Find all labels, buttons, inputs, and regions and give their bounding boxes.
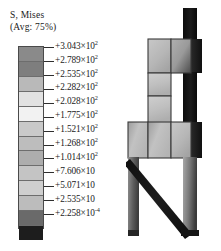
legend-swatch bbox=[19, 150, 43, 165]
legend-swatch bbox=[19, 195, 43, 210]
panel-upper-left bbox=[148, 39, 171, 73]
legend-swatch bbox=[19, 165, 43, 180]
legend-swatch bbox=[19, 180, 43, 195]
left-base-plate bbox=[128, 230, 139, 236]
panel-mid-upper bbox=[148, 73, 171, 96]
legend-label: +3.043×102 bbox=[55, 41, 98, 51]
legend-tick bbox=[44, 158, 54, 159]
legend-label: +2.789×102 bbox=[55, 55, 98, 65]
legend-swatch bbox=[19, 210, 43, 225]
legend-subtitle: (Avg: 75%) bbox=[10, 22, 56, 32]
legend-tick bbox=[44, 61, 54, 62]
legend-tick bbox=[44, 89, 54, 90]
legend-tick bbox=[44, 117, 54, 118]
legend-label: +1.521×102 bbox=[55, 124, 98, 134]
legend-swatch bbox=[19, 136, 43, 151]
legend-swatch bbox=[19, 121, 43, 136]
legend-label: +5.071×10 bbox=[55, 180, 95, 190]
legend-tick bbox=[44, 200, 54, 201]
legend-label: +1.268×102 bbox=[55, 138, 98, 148]
right-base-plate bbox=[181, 230, 199, 236]
legend-swatch bbox=[19, 91, 43, 106]
beam-cell-3 bbox=[171, 122, 191, 158]
legend-label: +1.014×102 bbox=[55, 152, 98, 162]
stress-contour-model bbox=[126, 0, 221, 251]
panel-mid-lower bbox=[148, 96, 171, 123]
legend-tick bbox=[44, 186, 54, 187]
legend-swatch bbox=[19, 106, 43, 121]
stress-legend: S, Mises (Avg: 75%) +3.043×102+2.789×102… bbox=[0, 0, 130, 251]
right-leg bbox=[183, 157, 197, 235]
legend-swatch bbox=[19, 76, 43, 91]
beam-cell-2 bbox=[148, 122, 171, 158]
vertical-column-mid bbox=[183, 72, 197, 123]
legend-tick bbox=[44, 47, 54, 48]
legend-label: +2.535×10 bbox=[55, 194, 95, 204]
legend-tick bbox=[44, 214, 54, 215]
legend-colorbar bbox=[18, 46, 44, 229]
legend-title: S, Mises bbox=[10, 10, 44, 20]
legend-tick bbox=[44, 172, 54, 173]
legend-tick bbox=[44, 103, 54, 104]
legend-tick bbox=[44, 131, 54, 132]
legend-label: +7.606×10 bbox=[55, 166, 95, 176]
panel-upper-right bbox=[171, 39, 191, 73]
legend-swatch bbox=[19, 61, 43, 76]
vertical-column-top bbox=[183, 8, 197, 42]
legend-label: +2.282×102 bbox=[55, 82, 98, 92]
model-canvas bbox=[126, 0, 221, 251]
legend-swatch bbox=[19, 47, 43, 61]
legend-tick bbox=[44, 75, 54, 76]
legend-label: +2.535×102 bbox=[55, 69, 98, 79]
legend-tick bbox=[44, 145, 54, 146]
legend-label: +2.028×102 bbox=[55, 96, 98, 106]
legend-label: +1.775×102 bbox=[55, 110, 98, 120]
legend-swatch bbox=[19, 225, 43, 240]
legend-label: +2.258×10-4 bbox=[55, 208, 100, 218]
beam-cell-1 bbox=[128, 122, 148, 158]
